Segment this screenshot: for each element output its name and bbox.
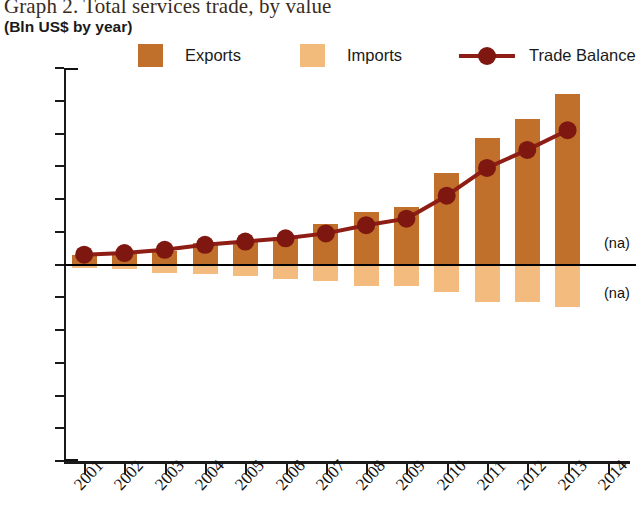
y-tick bbox=[55, 362, 64, 364]
legend-item-imports[interactable]: Imports bbox=[300, 42, 402, 68]
trade-balance-marker bbox=[115, 244, 133, 262]
trade-balance-marker bbox=[317, 224, 335, 242]
chart-figure: Graph 2. Total services trade, by value … bbox=[0, 0, 643, 517]
y-tick bbox=[55, 67, 64, 69]
trade-balance-marker bbox=[397, 210, 415, 228]
chart-title: Graph 2. Total services trade, by value bbox=[4, 0, 331, 19]
trade-balance-marker bbox=[236, 233, 254, 251]
trade-balance-line-series bbox=[64, 68, 628, 461]
y-tick bbox=[55, 264, 64, 266]
legend-swatch-imports bbox=[300, 44, 325, 67]
y-tick bbox=[55, 395, 64, 397]
y-tick bbox=[55, 427, 64, 429]
legend-item-trade-balance[interactable]: Trade Balance bbox=[459, 42, 636, 68]
legend-label-exports: Exports bbox=[185, 46, 241, 65]
legend-swatch-exports bbox=[138, 44, 163, 67]
trade-balance-marker bbox=[478, 159, 496, 177]
y-tick bbox=[55, 296, 64, 298]
trade-balance-marker bbox=[438, 187, 456, 205]
y-tick bbox=[55, 100, 64, 102]
plot-area: 6050403020100−10−20−30−40−50−60 bbox=[64, 68, 628, 461]
y-tick bbox=[55, 133, 64, 135]
chart-subtitle: (Bln US$ by year) bbox=[4, 18, 132, 36]
y-tick bbox=[55, 460, 64, 462]
trade-balance-marker bbox=[196, 236, 214, 254]
legend-marker-dot bbox=[478, 47, 496, 65]
y-tick bbox=[55, 198, 64, 200]
trade-balance-marker bbox=[357, 216, 375, 234]
legend-label-imports: Imports bbox=[347, 46, 402, 65]
chart-legend: Exports Imports Trade Balance bbox=[138, 42, 638, 68]
y-tick bbox=[55, 165, 64, 167]
legend-swatch-trade-balance bbox=[459, 44, 515, 67]
trade-balance-marker bbox=[518, 141, 536, 159]
y-tick bbox=[55, 231, 64, 233]
legend-item-exports[interactable]: Exports bbox=[138, 42, 241, 68]
trade-balance-marker bbox=[75, 246, 93, 264]
y-tick bbox=[55, 329, 64, 331]
trade-balance-marker bbox=[559, 121, 577, 139]
legend-label-trade-balance: Trade Balance bbox=[529, 46, 636, 65]
trade-balance-marker bbox=[156, 241, 174, 259]
trade-balance-marker bbox=[277, 229, 295, 247]
